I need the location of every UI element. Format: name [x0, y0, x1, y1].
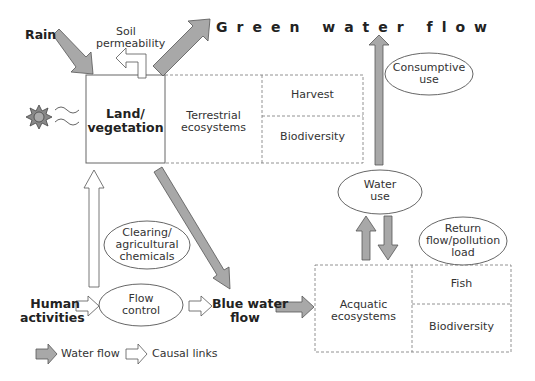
- aquatic-biodiversity-label: Biodiversity: [412, 321, 511, 333]
- aquatic-to-water-use-arrow: [356, 216, 376, 260]
- legend-causal-links-label: Causal links: [152, 348, 218, 360]
- water-flow-diagram: Green water flow Rain Soil permeability …: [0, 0, 535, 381]
- radiation-waves: [55, 107, 79, 125]
- soil-permeability-label: Soil permeability: [96, 26, 156, 50]
- sun-icon: [26, 105, 52, 129]
- green-water-flow-title: Green water flow: [216, 20, 496, 35]
- legend-causal-links-icon: [126, 344, 147, 364]
- causal-arrow-flow-to-blue: [189, 296, 212, 316]
- blue-water-flow-label: Blue water flow: [212, 297, 278, 325]
- rain-label: Rain: [25, 28, 56, 42]
- clearing-label: Clearing/ agricultural chemicals: [104, 227, 190, 263]
- flow-control-label: Flow control: [99, 293, 183, 317]
- legend-water-flow-icon: [36, 344, 57, 364]
- fish-label: Fish: [412, 278, 511, 290]
- soil-permeability-arrow: [116, 48, 146, 78]
- rain-arrow: [53, 29, 93, 74]
- land-vegetation-label: Land/ vegetation: [86, 107, 165, 135]
- water-use-to-aquatic-arrow: [378, 216, 398, 260]
- green-water-vertical-arrow: [369, 35, 389, 165]
- causal-arrow-human-to-land: [84, 170, 104, 287]
- terrestrial-ecosystems-label: Terrestrial ecosystems: [165, 110, 262, 134]
- legend-water-flow-label: Water flow: [61, 348, 120, 360]
- water-use-label: Water use: [338, 179, 422, 203]
- return-flow-label: Return flow/pollution load: [419, 223, 507, 259]
- acquatic-ecosystems-label: Acquatic ecosystems: [315, 299, 412, 323]
- consumptive-use-label: Consumptive use: [385, 62, 473, 86]
- harvest-label: Harvest: [262, 89, 363, 101]
- terrestrial-biodiversity-label: Biodiversity: [262, 131, 363, 143]
- human-activities-label: Human activities: [20, 297, 80, 325]
